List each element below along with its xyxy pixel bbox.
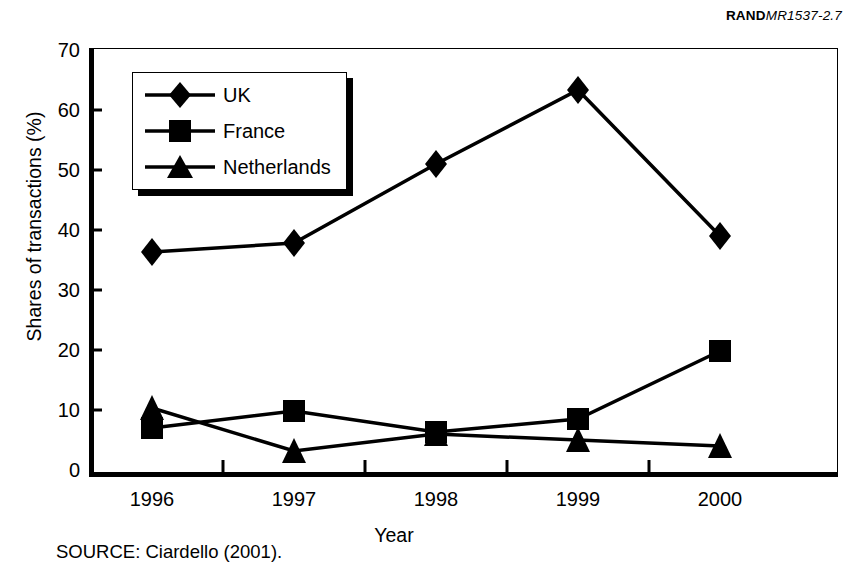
legend-label-netherlands: Netherlands <box>223 157 331 177</box>
legend-item-uk[interactable]: UK <box>133 77 346 113</box>
legend: UK France Netherlands <box>132 72 347 190</box>
x-tick-1998: 1998 <box>376 489 496 509</box>
rand-publication-mark: RANDMR1537-2.7 <box>726 8 842 23</box>
square-marker <box>143 116 217 146</box>
x-tick-2000: 2000 <box>660 489 780 509</box>
figure-chart-shares-of-transactions: RANDMR1537-2.7 70 60 50 40 30 20 10 0 Sh… <box>0 0 864 588</box>
series-netherlands <box>140 395 732 463</box>
x-tick-1999: 1999 <box>518 489 638 509</box>
legend-label-france: France <box>223 121 285 141</box>
y-axis-title: Shares of transactions (%) <box>23 17 46 437</box>
x-axis-title-text: Year <box>374 524 413 546</box>
diamond-marker <box>143 80 217 110</box>
rand-logo-text: RAND <box>726 8 766 23</box>
legend-item-netherlands[interactable]: Netherlands <box>133 149 346 185</box>
source-note: SOURCE: Ciardello (2001). <box>56 541 282 563</box>
series-france-line <box>152 351 720 432</box>
x-tick-1997: 1997 <box>234 489 354 509</box>
y-axis-ticks <box>89 110 102 410</box>
series-netherlands-markers <box>140 395 732 463</box>
triangle-marker <box>143 152 217 182</box>
legend-label-uk: UK <box>223 85 251 105</box>
rand-report-code: MR1537-2.7 <box>766 8 842 23</box>
legend-item-france[interactable]: France <box>133 113 346 149</box>
y-tick-0: 0 <box>34 460 80 480</box>
x-tick-1996: 1996 <box>92 489 212 509</box>
